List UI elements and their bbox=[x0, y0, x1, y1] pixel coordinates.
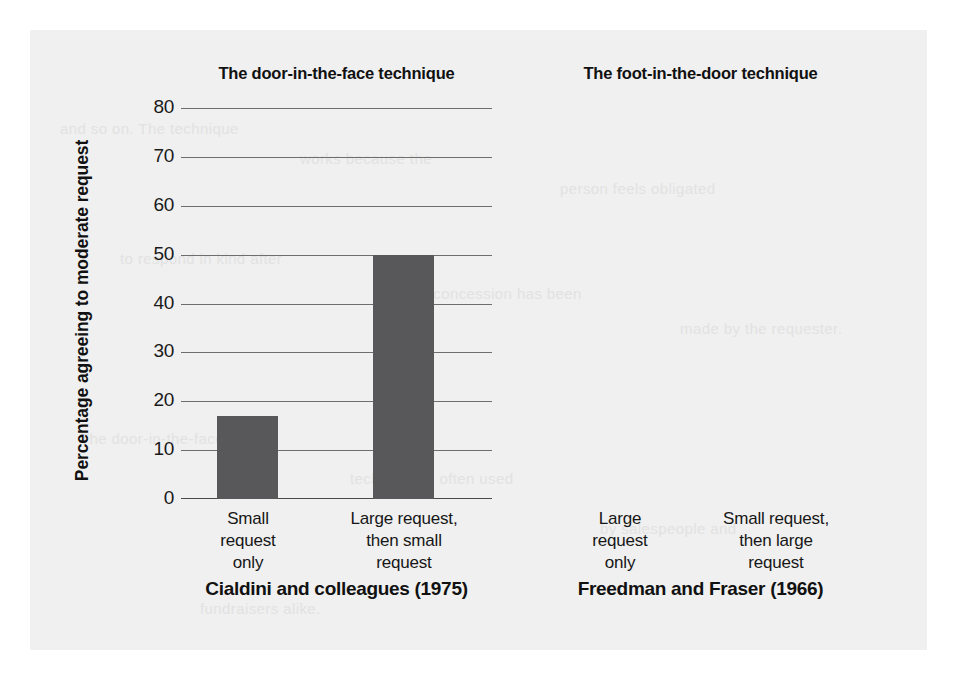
panel-door-in-the-face: The door-in-the-face technique Cialdini … bbox=[0, 0, 500, 675]
category-label-line: Small request, bbox=[691, 508, 861, 530]
category-label-left-2: Large request,then smallrequest bbox=[319, 508, 489, 574]
category-label-line: request bbox=[163, 530, 333, 552]
gridline-70 bbox=[181, 157, 492, 158]
gridline-40 bbox=[181, 304, 492, 305]
plot-area-left bbox=[181, 108, 492, 499]
category-label-line: Large request, bbox=[319, 508, 489, 530]
category-label-left-1: Smallrequestonly bbox=[163, 508, 333, 574]
source-caption-right: Freedman and Fraser (1966) bbox=[526, 578, 875, 600]
gridline-30 bbox=[181, 352, 492, 353]
category-label-line: request bbox=[691, 552, 861, 574]
category-label-right-1: Largerequestonly bbox=[535, 508, 705, 574]
category-label-line: then large bbox=[691, 530, 861, 552]
panel-foot-in-the-door: The foot-in-the-door technique Freedman … bbox=[500, 0, 954, 675]
category-label-line: Large bbox=[535, 508, 705, 530]
gridline-60 bbox=[181, 206, 492, 207]
gridline-50 bbox=[181, 255, 492, 256]
source-caption-left: Cialdini and colleagues (1975) bbox=[181, 578, 492, 600]
bar-chart-figure: and so on. The techniqueworks because th… bbox=[0, 0, 954, 675]
bar-left-2 bbox=[373, 255, 434, 499]
gridline-20 bbox=[181, 401, 492, 402]
category-label-line: request bbox=[319, 552, 489, 574]
category-label-right-2: Small request,then largerequest bbox=[691, 508, 861, 574]
bar-left-1 bbox=[217, 416, 278, 499]
category-label-line: then small bbox=[319, 530, 489, 552]
category-label-line: Small bbox=[163, 508, 333, 530]
category-label-line: only bbox=[163, 552, 333, 574]
panel-title-right: The foot-in-the-door technique bbox=[526, 64, 875, 83]
gridline-80 bbox=[181, 108, 492, 109]
category-label-line: only bbox=[535, 552, 705, 574]
category-label-line: request bbox=[535, 530, 705, 552]
panel-title-left: The door-in-the-face technique bbox=[181, 64, 492, 83]
